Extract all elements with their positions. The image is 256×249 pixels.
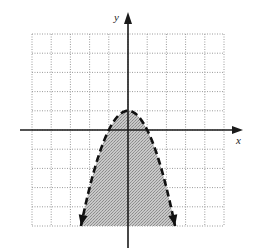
x-axis-arrow-icon — [232, 126, 243, 134]
x-axis-label: x — [235, 134, 241, 146]
y-axis-arrow-icon — [124, 12, 132, 24]
inequality-graph: y x — [0, 0, 256, 249]
y-axis-label: y — [113, 11, 119, 23]
